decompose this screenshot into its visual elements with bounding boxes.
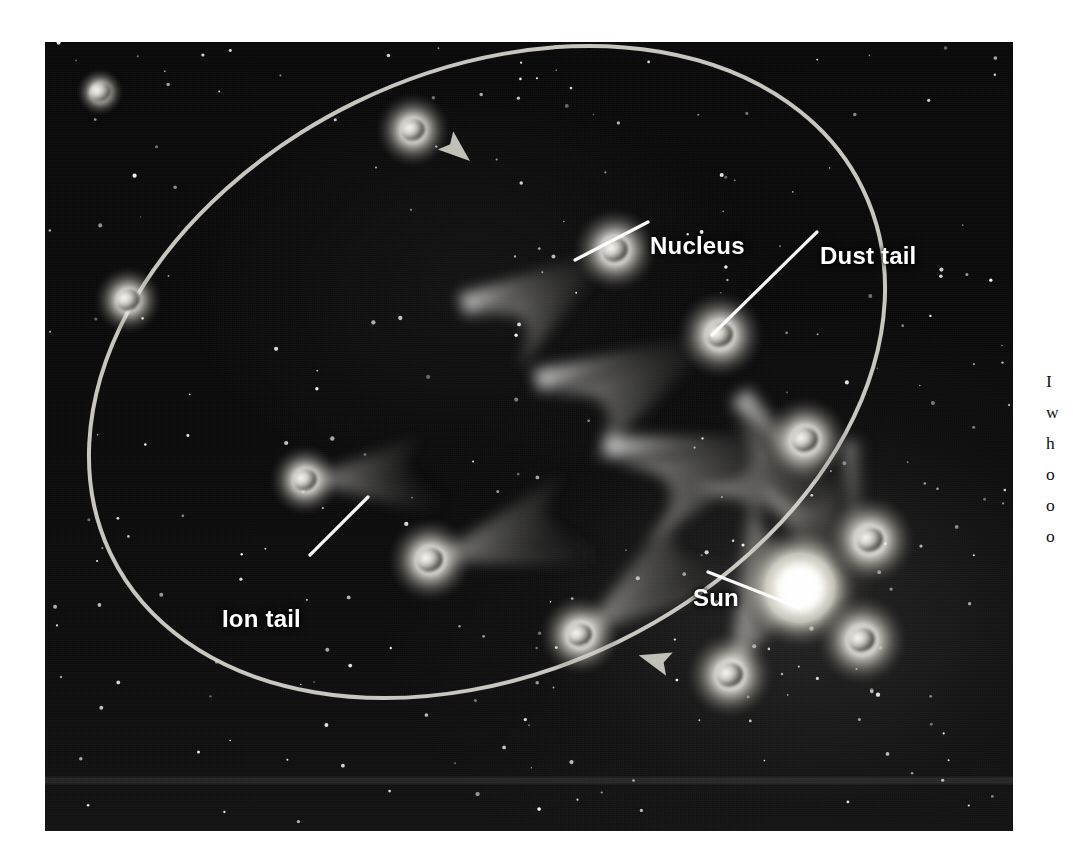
label-ion-tail: Ion tail: [222, 605, 301, 633]
orbit-ellipse: [45, 42, 994, 825]
label-sun: Sun: [693, 584, 739, 612]
orbit-path-layer: [45, 42, 994, 825]
side-text-line: w: [1046, 397, 1073, 428]
side-text-line: I: [1046, 366, 1073, 397]
stars-layer: [49, 42, 1011, 823]
orbit-direction-arrow: [635, 644, 672, 676]
sun-core: [777, 565, 823, 611]
side-text-line: o: [1046, 459, 1073, 490]
orbit-scene-svg: [45, 42, 1013, 831]
side-body-text-column: I w h o o o: [1046, 366, 1073, 552]
label-nucleus: Nucleus: [650, 232, 745, 260]
comet-orbit-figure: Nucleus Dust tail Ion tail Sun: [45, 42, 1013, 831]
page-root: { "figure": { "title": "Comet orbit arou…: [0, 0, 1073, 859]
side-text-line: o: [1046, 521, 1073, 552]
side-text-line: h: [1046, 428, 1073, 459]
label-dust-tail: Dust tail: [820, 242, 916, 270]
side-text-line: o: [1046, 490, 1073, 521]
